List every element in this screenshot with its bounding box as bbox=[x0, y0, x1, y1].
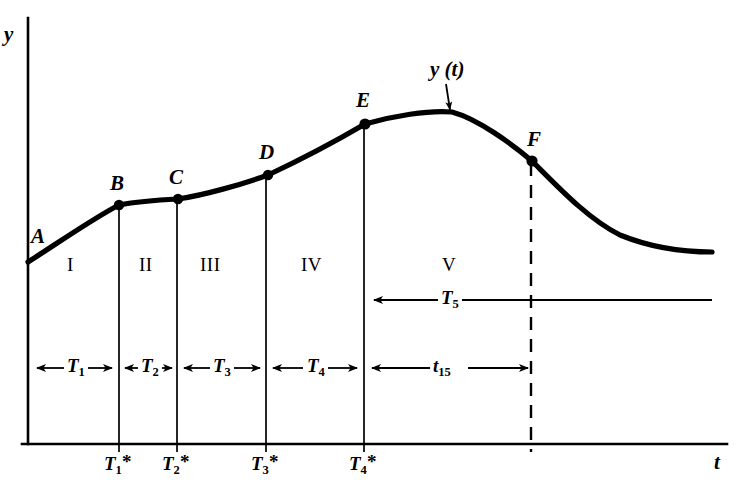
curve-label: y (t) bbox=[430, 59, 464, 80]
phase-divider-lines bbox=[119, 125, 364, 452]
point-marker-E bbox=[359, 118, 370, 129]
interval-label-T3: T3 bbox=[210, 356, 234, 378]
x-tick-label-T4-star: T4* bbox=[349, 452, 376, 476]
phase-numeral-V: V bbox=[442, 255, 456, 274]
y-axis-label: y bbox=[4, 24, 13, 45]
response-curve bbox=[28, 112, 712, 262]
axis-group bbox=[22, 18, 727, 444]
interval-label-T2: T2 bbox=[138, 356, 162, 378]
interval-label-T4: T4 bbox=[304, 356, 328, 378]
curve-label-arrow bbox=[446, 84, 450, 110]
point-label-C: C bbox=[169, 167, 183, 188]
point-label-A: A bbox=[31, 226, 45, 247]
point-marker-F bbox=[526, 155, 537, 166]
phase-numeral-III: III bbox=[200, 255, 220, 274]
point-marker-C bbox=[173, 194, 183, 204]
figure-canvas: y t y (t) A B C D E F I II III IV V T1 T… bbox=[0, 0, 744, 480]
diagram-svg bbox=[0, 0, 744, 480]
point-marker-D bbox=[263, 170, 273, 180]
x-axis-label: t bbox=[714, 452, 720, 473]
point-marker-B bbox=[114, 200, 124, 210]
x-tick-label-T3-star: T3* bbox=[251, 452, 278, 476]
phase-numeral-I: I bbox=[67, 255, 74, 274]
x-tick-label-T2-star: T2* bbox=[162, 452, 189, 476]
interval-label-T1: T1 bbox=[64, 356, 88, 378]
interval-label-t15: t15 bbox=[430, 356, 454, 378]
point-label-F: F bbox=[527, 129, 541, 150]
phase-numeral-IV: IV bbox=[301, 255, 322, 274]
point-label-E: E bbox=[356, 90, 370, 111]
x-tick-label-T1-star: T1* bbox=[104, 452, 131, 476]
point-label-D: D bbox=[259, 142, 274, 163]
phase-numeral-II: II bbox=[139, 255, 153, 274]
point-label-B: B bbox=[110, 173, 124, 194]
interval-label-T5: T5 bbox=[438, 288, 462, 310]
